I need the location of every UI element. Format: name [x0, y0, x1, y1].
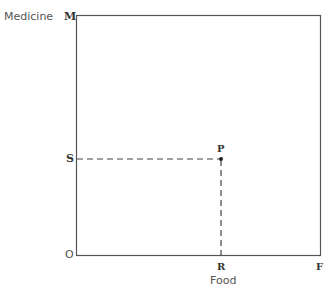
- label-r: R: [217, 261, 225, 272]
- x-axis-label: Food: [210, 274, 236, 287]
- label-m: M: [64, 10, 76, 23]
- label-p: P: [217, 143, 225, 154]
- frame-box: [77, 16, 321, 256]
- label-s: S: [66, 152, 74, 165]
- production-box-diagram: [0, 0, 332, 288]
- y-axis-label: Medicine: [4, 10, 53, 23]
- point-p-marker: [219, 157, 223, 161]
- label-f: F: [316, 261, 323, 272]
- label-o: O: [65, 248, 74, 261]
